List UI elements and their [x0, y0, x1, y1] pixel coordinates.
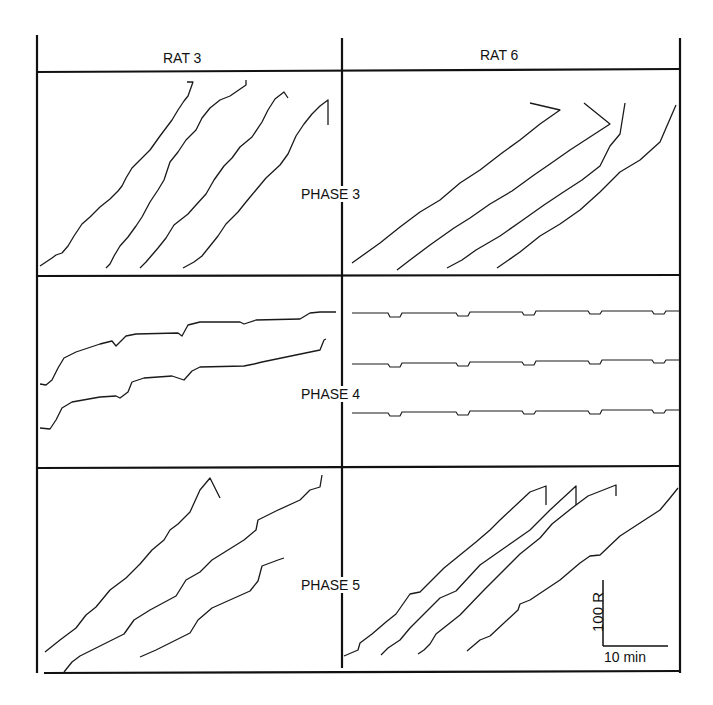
row-label-phase4: PHASE 4 — [299, 386, 362, 402]
cumulative-record-figure — [0, 0, 713, 705]
row-label-phase5: PHASE 5 — [299, 577, 362, 593]
scale-label-time: 10 min — [604, 649, 646, 665]
rat6-phase4-traces — [352, 311, 680, 416]
rat6-phase5-traces — [344, 485, 678, 656]
scale-label-responses: 100 R — [590, 582, 606, 642]
rat6-phase3-traces — [352, 103, 676, 270]
rat3-phase3-traces — [40, 80, 328, 268]
column-label-rat3: RAT 3 — [163, 50, 201, 66]
rat3-phase5-traces — [45, 475, 322, 672]
row-label-phase3: PHASE 3 — [299, 186, 362, 202]
column-label-rat6: RAT 6 — [480, 47, 518, 63]
rat3-phase4-traces — [40, 312, 336, 429]
scale-bar — [603, 580, 668, 646]
